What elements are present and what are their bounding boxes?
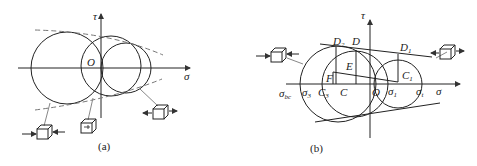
label-C1: C1 [402, 69, 413, 83]
cube-icon [143, 105, 177, 119]
diagram-canvas: τ σ O (a) [0, 0, 477, 166]
cube-icon [431, 45, 464, 59]
label-D: D [351, 35, 360, 47]
caption-b: (b) [310, 142, 323, 155]
cube-icon [22, 125, 65, 139]
lower-envelope [315, 103, 440, 122]
label-D1: D1 [399, 41, 411, 55]
sigma-label-b: σ [436, 85, 442, 97]
caption-a: (a) [98, 140, 111, 153]
panel-b [256, 20, 464, 138]
leader-line [44, 103, 50, 126]
leader-line [140, 89, 158, 106]
label-D2: D2 [332, 35, 345, 49]
leader-line [287, 58, 303, 64]
label-E: E [345, 60, 353, 72]
mohr-circle-diagram: τ σ O (a) [0, 0, 477, 166]
label-sigma-t: σt [416, 85, 424, 99]
label-C: C [340, 86, 348, 98]
leader-line [88, 98, 93, 120]
label-sigma3: σ3 [302, 86, 311, 100]
lower-envelope [35, 79, 162, 110]
label-sigma1: σ1 [388, 85, 397, 99]
label-sigma-bc: σbc [279, 87, 292, 101]
label-C3: C3 [318, 86, 329, 100]
line-FC1 [333, 72, 398, 82]
tau-label-b: τ [361, 9, 366, 21]
origin-label-b: O [372, 86, 380, 98]
sigma-label-a: σ [184, 70, 190, 82]
cube-icon [81, 119, 96, 133]
label-F: F [325, 72, 333, 84]
origin-label-a: O [87, 56, 95, 68]
tau-label-a: τ [93, 10, 98, 22]
panel-a [18, 14, 190, 139]
